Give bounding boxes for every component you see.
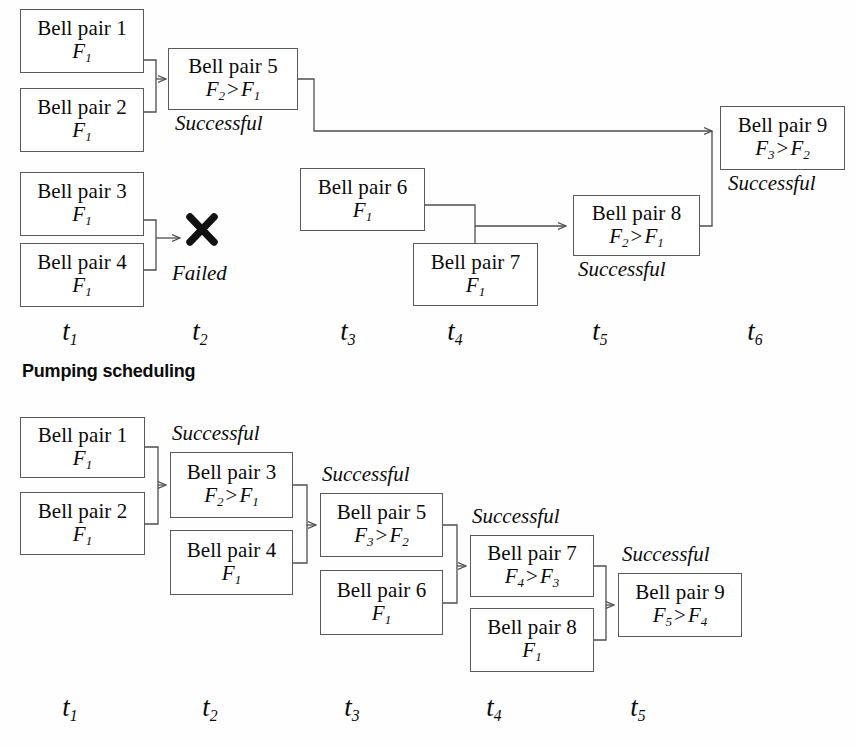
node-fidelity: F5>F4: [653, 604, 708, 628]
node-fidelity: F1: [222, 562, 241, 586]
node-pumping-bp5: Bell pair 5F3>F2: [320, 493, 443, 557]
node-fidelity: F1: [522, 639, 541, 663]
time-label-swapping-t3: t3: [340, 316, 355, 349]
node-fidelity: F3>F2: [755, 137, 810, 161]
node-fidelity: F1: [72, 40, 91, 64]
node-fidelity: F1: [73, 447, 92, 471]
node-fidelity: F1: [72, 203, 91, 227]
time-label-pumping-t2: t2: [202, 692, 217, 725]
node-swapping-bp3: Bell pair 3F1: [20, 172, 144, 236]
node-fidelity: F3>F2: [354, 524, 409, 548]
node-fidelity: F1: [353, 199, 372, 223]
node-swapping-bp9: Bell pair 9F3>F2: [720, 106, 845, 170]
node-label: Bell pair 4: [187, 539, 277, 561]
swapping-status-bp5: Successful: [175, 111, 262, 136]
node-fidelity: F2>F1: [204, 484, 259, 508]
diagram-canvas: Bell pair 1F1Bell pair 2F1Bell pair 3F1B…: [0, 0, 855, 746]
time-label-swapping-t4: t4: [447, 316, 462, 349]
node-fidelity: F1: [73, 523, 92, 547]
pumping-status-bp3: Successful: [172, 421, 259, 446]
time-label-pumping-t3: t3: [344, 692, 359, 725]
node-fidelity: F1: [72, 119, 91, 143]
node-swapping-bp7: Bell pair 7F1: [413, 243, 538, 306]
time-label-swapping-t6: t6: [747, 316, 762, 349]
node-label: Bell pair 9: [738, 114, 828, 136]
node-pumping-bp1: Bell pair 1F1: [20, 417, 145, 478]
node-fidelity: F2>F1: [206, 78, 261, 102]
node-fidelity: F1: [466, 274, 485, 298]
node-label: Bell pair 7: [487, 542, 577, 564]
node-label: Bell pair 4: [37, 251, 127, 273]
pumping-status-bp7: Successful: [472, 504, 559, 529]
node-label: Bell pair 3: [187, 461, 277, 483]
node-label: Bell pair 9: [635, 581, 725, 603]
node-label: Bell pair 8: [592, 202, 682, 224]
node-label: Bell pair 8: [487, 616, 577, 638]
node-label: Bell pair 5: [188, 55, 278, 77]
node-label: Bell pair 2: [38, 500, 128, 522]
node-swapping-bp4: Bell pair 4F1: [20, 243, 144, 307]
swapping-status-bp9: Successful: [728, 171, 815, 196]
node-pumping-bp8: Bell pair 8F1: [470, 608, 594, 672]
swapping-status-failed: Failed: [172, 261, 227, 286]
node-fidelity: F2>F1: [609, 225, 664, 249]
time-label-pumping-t5: t5: [630, 692, 645, 725]
node-pumping-bp4: Bell pair 4F1: [170, 530, 293, 595]
node-pumping-bp7: Bell pair 7F4>F3: [470, 535, 594, 597]
node-label: Bell pair 3: [37, 180, 127, 202]
pumping-status-bp5: Successful: [322, 462, 409, 487]
failed-cross-icon: [185, 213, 219, 251]
swapping-status-bp8: Successful: [578, 257, 665, 282]
node-pumping-bp3: Bell pair 3F2>F1: [170, 452, 293, 518]
node-label: Bell pair 1: [38, 424, 128, 446]
time-label-pumping-t1: t1: [62, 692, 77, 725]
section-title-pumping: Pumping scheduling: [22, 361, 195, 382]
node-label: Bell pair 2: [37, 96, 127, 118]
node-label: Bell pair 1: [37, 17, 127, 39]
node-swapping-bp5: Bell pair 5F2>F1: [168, 48, 298, 110]
node-label: Bell pair 7: [431, 251, 521, 273]
node-label: Bell pair 6: [337, 579, 427, 601]
node-swapping-bp8: Bell pair 8F2>F1: [573, 195, 700, 256]
time-label-swapping-t1: t1: [62, 316, 77, 349]
time-label-swapping-t5: t5: [592, 316, 607, 349]
node-label: Bell pair 5: [337, 501, 427, 523]
time-label-swapping-t2: t2: [192, 316, 207, 349]
node-label: Bell pair 6: [318, 176, 408, 198]
node-fidelity: F4>F3: [505, 565, 560, 589]
time-label-pumping-t4: t4: [486, 692, 501, 725]
node-fidelity: F1: [372, 602, 391, 626]
node-pumping-bp9: Bell pair 9F5>F4: [618, 573, 742, 637]
node-pumping-bp6: Bell pair 6F1: [320, 570, 443, 635]
node-swapping-bp1: Bell pair 1F1: [20, 9, 144, 73]
node-fidelity: F1: [72, 274, 91, 298]
node-pumping-bp2: Bell pair 2F1: [20, 492, 145, 555]
node-swapping-bp6: Bell pair 6F1: [300, 168, 425, 231]
node-swapping-bp2: Bell pair 2F1: [20, 88, 144, 152]
pumping-status-bp9: Successful: [622, 542, 709, 567]
